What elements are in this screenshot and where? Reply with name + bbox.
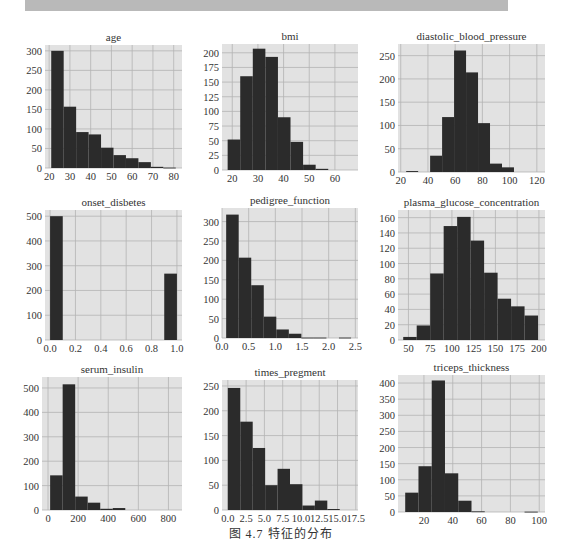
histogram-bar	[50, 475, 63, 510]
x-tick-label: 10.0	[292, 513, 310, 524]
y-tick-label: 20	[385, 320, 396, 331]
histogram-bar	[278, 117, 291, 170]
y-tick-label: 250	[379, 51, 395, 62]
y-tick-label: 250	[26, 65, 42, 76]
x-tick-label: 400	[100, 513, 116, 524]
x-tick-label: 0.4	[94, 343, 108, 354]
y-tick-label: 500	[23, 383, 39, 394]
histogram-bar	[126, 158, 138, 168]
y-tick-label: 200	[203, 255, 219, 266]
y-tick-label: 0	[390, 167, 395, 178]
x-tick-label: 175	[509, 343, 525, 354]
x-tick-label: 0.6	[120, 343, 133, 354]
histogram-bar	[264, 317, 277, 338]
subplot-onset-disbetes: onset_disbetes0.00.20.40.60.81.001002003…	[26, 196, 183, 354]
subplot-plasma-glucose-concentration: plasma_glucose_concentration507510012515…	[379, 196, 547, 354]
y-tick-label: 300	[379, 410, 395, 421]
y-tick-label: 0	[214, 505, 219, 516]
histogram-bar	[51, 51, 63, 168]
y-tick-label: 400	[23, 407, 39, 418]
histogram-bar	[457, 217, 470, 340]
subplot-times-pregment: times_pregment0.02.55.07.510.012.515.017…	[203, 366, 365, 524]
subplot-title: diastolic_blood_pressure	[417, 30, 527, 42]
x-tick-label: 17.5	[347, 513, 365, 524]
histogram-bar	[89, 134, 101, 168]
plot-area	[45, 210, 182, 340]
y-tick-label: 50	[209, 136, 220, 147]
histogram-bar	[75, 497, 88, 510]
y-tick-label: 100	[26, 124, 42, 135]
x-tick-label: 80	[477, 175, 488, 186]
histogram-bar	[101, 148, 113, 168]
x-tick-label: 20	[395, 175, 406, 186]
subplot-title: serum_insulin	[81, 363, 144, 375]
x-tick-label: 40	[423, 175, 434, 186]
x-tick-label: 0	[45, 513, 50, 524]
y-tick-label: 0	[214, 333, 219, 344]
histogram-bar	[240, 76, 253, 170]
x-tick-label: 40	[85, 171, 96, 182]
histogram-bar	[164, 274, 177, 340]
subplot-diastolic-blood-pressure: diastolic_blood_pressure2040608010012005…	[379, 30, 545, 186]
subplot-title: age	[106, 31, 121, 43]
x-tick-label: 1.5	[295, 341, 308, 352]
histogram-bar	[226, 215, 239, 338]
histogram-bar	[444, 226, 457, 340]
histogram-bar	[406, 171, 418, 172]
x-tick-label: 0.8	[145, 343, 158, 354]
figure-caption: 图 4.7 特征的分布	[0, 524, 561, 542]
histogram-bar	[251, 285, 264, 338]
y-tick-label: 0	[37, 163, 42, 174]
y-tick-label: 300	[203, 217, 219, 228]
y-tick-label: 40	[385, 304, 396, 315]
x-tick-label: 15.0	[328, 513, 346, 524]
subplot-title: plasma_glucose_concentration	[404, 196, 540, 208]
x-tick-label: 2.5	[240, 513, 253, 524]
histogram-bar	[228, 140, 241, 170]
y-tick-label: 25	[209, 150, 220, 161]
x-tick-label: 0.0	[221, 513, 234, 524]
histogram-bar	[525, 512, 538, 513]
x-tick-label: 600	[130, 513, 146, 524]
x-tick-label: 1.0	[269, 341, 282, 352]
y-tick-label: 75	[209, 121, 220, 132]
histogram-bar	[314, 338, 327, 339]
histogram-grid-figure: age20304050607080050100150200250300bmi20…	[0, 0, 561, 559]
x-tick-label: 0.2	[69, 343, 82, 354]
y-tick-label: 200	[23, 456, 39, 467]
histogram-bar	[432, 380, 445, 512]
subplot-serum-insulin: serum_insulin020040060080001002003004005…	[23, 363, 182, 524]
y-tick-label: 250	[379, 426, 395, 437]
x-tick-label: 0.0	[44, 343, 57, 354]
y-tick-label: 50	[209, 314, 220, 325]
y-tick-label: 50	[32, 143, 43, 154]
x-tick-label: 20	[44, 171, 55, 182]
histogram-bar	[430, 273, 443, 340]
histogram-bar	[484, 273, 497, 340]
histogram-bar	[64, 107, 76, 168]
y-tick-label: 100	[379, 475, 395, 486]
x-tick-label: 75	[425, 343, 436, 354]
histogram-bar	[76, 132, 88, 168]
y-tick-label: 250	[203, 381, 219, 392]
x-tick-label: 125	[466, 343, 482, 354]
x-tick-label: 40	[278, 173, 289, 184]
histogram-bar	[253, 448, 265, 510]
histogram-bar	[417, 325, 430, 340]
y-tick-label: 150	[203, 275, 219, 286]
x-tick-label: 150	[488, 343, 504, 354]
histogram-bar	[114, 155, 126, 168]
y-tick-label: 100	[203, 106, 219, 117]
y-tick-label: 300	[26, 46, 42, 57]
y-tick-label: 100	[203, 455, 219, 466]
histogram-bar	[151, 167, 163, 168]
subplot-title: times_pregment	[255, 366, 326, 378]
x-tick-label: 20	[227, 173, 238, 184]
histogram-bar	[445, 473, 458, 512]
histogram-bar	[253, 49, 266, 170]
y-tick-label: 0	[390, 335, 395, 346]
y-tick-label: 100	[379, 120, 395, 131]
y-tick-label: 175	[203, 62, 219, 73]
histogram-bar	[265, 485, 277, 510]
histogram-bar	[511, 306, 524, 340]
